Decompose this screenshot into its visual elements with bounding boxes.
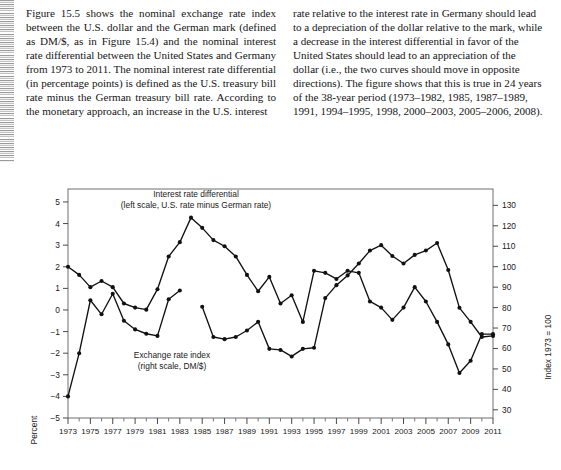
svg-text:(right scale, DM/$): (right scale, DM/$) bbox=[138, 361, 207, 371]
data-point bbox=[133, 306, 137, 310]
data-point bbox=[133, 327, 137, 331]
data-point bbox=[312, 346, 316, 350]
data-point bbox=[267, 347, 271, 351]
data-point bbox=[211, 335, 215, 339]
data-point bbox=[413, 285, 417, 289]
data-point bbox=[100, 312, 104, 316]
data-point bbox=[491, 332, 495, 336]
x-tick-label: 1973 bbox=[59, 427, 78, 436]
data-point bbox=[346, 273, 350, 277]
data-point bbox=[88, 285, 92, 289]
svg-text:(left scale, U.S. rate minus G: (left scale, U.S. rate minus German rate… bbox=[121, 200, 272, 210]
data-point bbox=[100, 279, 104, 283]
data-point bbox=[435, 241, 439, 245]
data-point bbox=[469, 359, 473, 363]
data-point bbox=[435, 320, 439, 324]
data-point bbox=[323, 296, 327, 300]
chart-background bbox=[0, 162, 561, 470]
data-point bbox=[223, 337, 227, 341]
data-point bbox=[66, 265, 70, 269]
data-point bbox=[77, 351, 81, 355]
right-tick-label: 60 bbox=[502, 343, 512, 353]
left-tick-label: −5 bbox=[50, 413, 60, 423]
data-point bbox=[267, 275, 271, 279]
data-point bbox=[245, 273, 249, 277]
data-point bbox=[122, 301, 126, 305]
data-point bbox=[357, 271, 361, 275]
body-text-columns: Figure 15.5 shows the nominal exchange r… bbox=[26, 6, 544, 118]
x-tick-label: 1975 bbox=[81, 427, 100, 436]
x-tick-label: 1985 bbox=[193, 427, 212, 436]
data-point bbox=[312, 269, 316, 273]
data-point bbox=[144, 308, 148, 312]
data-point bbox=[155, 287, 159, 291]
data-point bbox=[457, 371, 461, 375]
right-axis-title: Index 1973 = 100 bbox=[543, 314, 553, 379]
data-point bbox=[200, 305, 204, 309]
x-tick-label: 1983 bbox=[171, 427, 190, 436]
x-tick-label: 1993 bbox=[283, 427, 302, 436]
left-tick-label: −4 bbox=[50, 391, 60, 401]
data-point bbox=[424, 249, 428, 253]
data-point bbox=[469, 320, 473, 324]
data-point bbox=[446, 268, 450, 272]
x-tick-label: 2001 bbox=[372, 427, 391, 436]
data-point bbox=[144, 332, 148, 336]
x-tick-label: 2005 bbox=[417, 427, 436, 436]
data-point bbox=[301, 320, 305, 324]
data-point bbox=[368, 299, 372, 303]
data-point bbox=[245, 328, 249, 332]
left-tick-label: 3 bbox=[55, 240, 60, 250]
data-point bbox=[379, 306, 383, 310]
data-point bbox=[413, 253, 417, 257]
right-tick-label: 30 bbox=[502, 405, 512, 415]
right-tick-label: 100 bbox=[502, 262, 516, 272]
data-point bbox=[111, 292, 115, 296]
data-point bbox=[390, 318, 394, 322]
data-point bbox=[167, 297, 171, 301]
left-tick-label: −3 bbox=[50, 370, 60, 380]
left-tick-label: −1 bbox=[50, 327, 60, 337]
data-point bbox=[301, 347, 305, 351]
x-tick-label: 2009 bbox=[462, 427, 481, 436]
paragraph-left: Figure 15.5 shows the nominal exchange r… bbox=[26, 6, 276, 118]
right-tick-label: 80 bbox=[502, 303, 512, 313]
x-tick-label: 1989 bbox=[238, 427, 257, 436]
page: Figure 15.5 shows the nominal exchange r… bbox=[0, 0, 561, 470]
data-point bbox=[346, 269, 350, 273]
data-point bbox=[200, 226, 204, 230]
left-tick-label: 5 bbox=[55, 197, 60, 207]
data-point bbox=[256, 320, 260, 324]
data-point bbox=[390, 254, 394, 258]
paragraph-right: rate relative to the interest rate in Ge… bbox=[293, 6, 543, 118]
data-point bbox=[211, 238, 215, 242]
right-tick-label: 120 bbox=[502, 221, 516, 231]
figure-15-5: 543210−1−2−3−4−5 13012011010090807060504… bbox=[0, 162, 561, 470]
right-tick-label: 130 bbox=[502, 200, 516, 210]
right-tick-label: 50 bbox=[502, 364, 512, 374]
svg-text:Exchange rate index: Exchange rate index bbox=[134, 350, 211, 360]
data-point bbox=[323, 271, 327, 275]
x-tick-label: 2003 bbox=[395, 427, 414, 436]
right-tick-label: 40 bbox=[502, 384, 512, 394]
data-point bbox=[290, 293, 294, 297]
data-point bbox=[424, 299, 428, 303]
x-tick-label: 1977 bbox=[104, 427, 123, 436]
data-point bbox=[446, 342, 450, 346]
data-point bbox=[457, 306, 461, 310]
data-point bbox=[379, 243, 383, 247]
x-tick-label: 1987 bbox=[216, 427, 235, 436]
data-point bbox=[122, 319, 126, 323]
x-tick-label: 2007 bbox=[439, 427, 458, 436]
data-point bbox=[189, 216, 193, 220]
svg-text:Interest rate differential: Interest rate differential bbox=[153, 189, 239, 199]
left-tick-label: −2 bbox=[50, 348, 60, 358]
data-point bbox=[334, 277, 338, 281]
data-point bbox=[77, 273, 81, 277]
exchange-rate-annotation: Exchange rate index (right scale, DM/$) bbox=[134, 350, 211, 371]
data-point bbox=[290, 354, 294, 358]
left-tick-label: 4 bbox=[55, 219, 60, 229]
x-tick-label: 1995 bbox=[305, 427, 324, 436]
data-point bbox=[178, 240, 182, 244]
data-point bbox=[111, 285, 115, 289]
